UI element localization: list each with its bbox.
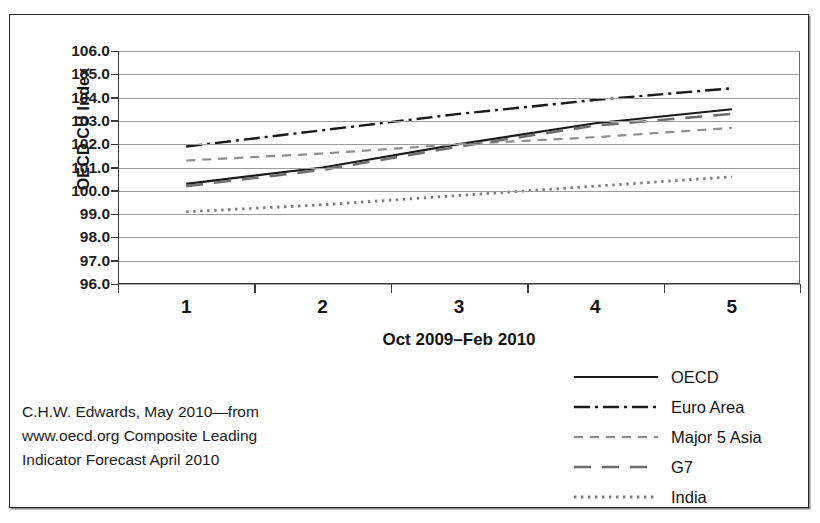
legend-line-swatch <box>573 460 659 474</box>
y-axis-tick-label: 101.0 <box>71 160 110 175</box>
x-axis-tick-labels: 12345 <box>118 296 800 322</box>
legend-label: G7 <box>671 458 693 477</box>
y-axis-tick-label: 102.0 <box>71 136 110 151</box>
caption-line: Indicator Forecast April 2010 <box>22 448 352 472</box>
legend-item-oecd[interactable]: OECD <box>573 362 808 392</box>
x-axis-tick <box>800 284 801 293</box>
legend-line-swatch <box>573 430 659 444</box>
x-axis-tick-label: 5 <box>727 296 738 318</box>
y-axis-tick-label: 105.0 <box>71 66 110 81</box>
x-axis-tick <box>664 284 665 293</box>
y-axis-tick-label: 103.0 <box>71 113 110 128</box>
legend-item-india[interactable]: India <box>573 482 808 512</box>
y-axis-tick-label: 106.0 <box>71 43 110 58</box>
y-axis-tick-label: 96.0 <box>80 276 110 291</box>
legend-line-swatch <box>573 490 659 504</box>
x-axis-tick-label: 1 <box>181 296 192 318</box>
y-axis-tick-label: 97.0 <box>80 253 110 268</box>
plot-area <box>118 51 800 284</box>
chart-legend: OECDEuro AreaMajor 5 AsiaG7India <box>573 362 808 512</box>
y-axis-tick-labels: 106.0105.0104.0103.0102.0101.0100.099.09… <box>28 51 110 284</box>
x-axis-title: Oct 2009–Feb 2010 <box>118 330 800 350</box>
x-axis-tick <box>527 284 528 293</box>
x-axis-tick-label: 3 <box>454 296 465 318</box>
y-axis-tick-label: 98.0 <box>80 229 110 244</box>
caption-line: www.oecd.org Composite Leading <box>22 424 352 448</box>
plot-frame <box>118 51 800 284</box>
figure-caption: C.H.W. Edwards, May 2010—fromwww.oecd.or… <box>22 400 352 472</box>
legend-line-swatch <box>573 400 659 414</box>
y-axis-tick-label: 104.0 <box>71 90 110 105</box>
legend-item-major-5-asia[interactable]: Major 5 Asia <box>573 422 808 452</box>
x-axis-ticks <box>118 284 800 294</box>
x-axis-tick-label: 4 <box>590 296 601 318</box>
legend-item-g7[interactable]: G7 <box>573 452 808 482</box>
chart-figure: OECD CU Index 106.0105.0104.0103.0102.01… <box>0 0 820 523</box>
legend-line-swatch <box>573 370 659 384</box>
caption-line: C.H.W. Edwards, May 2010—from <box>22 400 352 424</box>
x-axis-tick-label: 2 <box>317 296 328 318</box>
y-axis-tick-label: 99.0 <box>80 206 110 221</box>
legend-label: Euro Area <box>671 398 744 417</box>
x-axis-tick <box>391 284 392 293</box>
y-axis-tick-label: 100.0 <box>71 183 110 198</box>
legend-label: India <box>671 488 707 507</box>
legend-label: Major 5 Asia <box>671 428 762 447</box>
x-axis-tick <box>118 284 119 293</box>
cropped-title-remnant <box>150 0 670 9</box>
legend-item-euro-area[interactable]: Euro Area <box>573 392 808 422</box>
x-axis-tick <box>254 284 255 293</box>
legend-label: OECD <box>671 368 719 387</box>
